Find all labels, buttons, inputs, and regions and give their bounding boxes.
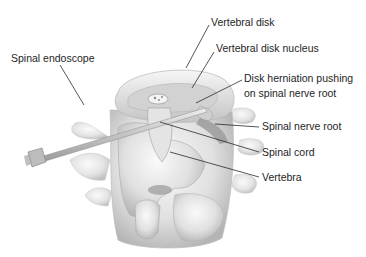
label-disk-herniation-line2: on spinal nerve root xyxy=(244,86,336,101)
label-spinal-nerve-root: Spinal nerve root xyxy=(262,119,341,134)
label-vertebral-disk-nucleus: Vertebral disk nucleus xyxy=(216,41,319,56)
label-vertebral-disk: Vertebral disk xyxy=(211,15,275,30)
label-spinal-endoscope: Spinal endoscope xyxy=(11,51,94,66)
label-disk-herniation-line1: Disk herniation pushing xyxy=(244,71,353,86)
vertebral-disk xyxy=(115,70,234,122)
label-spinal-cord: Spinal cord xyxy=(262,145,315,160)
label-vertebra: Vertebra xyxy=(262,170,302,185)
disk-nucleus xyxy=(148,94,168,104)
